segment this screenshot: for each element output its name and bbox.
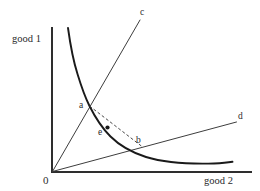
y-axis-label: good 1 xyxy=(12,33,41,44)
indifference-curve xyxy=(68,28,233,164)
x-axis-label: good 2 xyxy=(204,175,233,186)
point-a-label: a xyxy=(79,100,84,110)
figure-canvas: good 1 good 2 0 a b e c d xyxy=(0,0,260,191)
origin-label: 0 xyxy=(43,174,49,186)
ray-d-label: d xyxy=(238,111,243,121)
ray-c-label: c xyxy=(140,7,144,17)
point-b-label: b xyxy=(136,135,141,145)
point-e-label: e xyxy=(98,127,102,137)
point-e-marker xyxy=(105,125,109,129)
economics-indifference-curve-figure: good 1 good 2 0 a b e c d xyxy=(0,0,260,191)
